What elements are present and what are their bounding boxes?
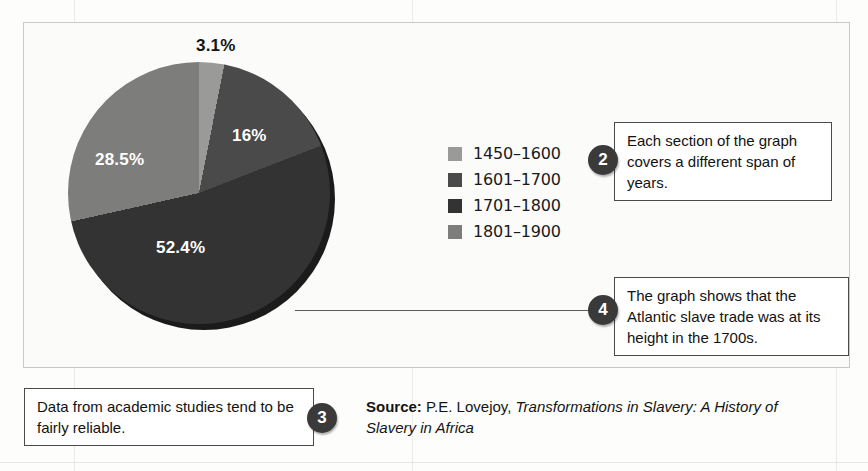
- legend-swatch-icon: [448, 147, 462, 161]
- source-label: Source:: [366, 398, 422, 415]
- legend-swatch-icon: [448, 173, 462, 187]
- source-author: P.E. Lovejoy,: [422, 398, 516, 415]
- pie-disc: [68, 62, 330, 324]
- legend-item-1450-1600[interactable]: 1450–1600: [448, 142, 561, 165]
- pie-chart: [68, 62, 330, 324]
- chart-legend: 1450–16001601–17001701–18001801–1900: [448, 142, 561, 246]
- legend-item-label: 1601–1700: [473, 170, 561, 189]
- callout-box-4: The graph shows that the Atlantic slave …: [614, 277, 849, 356]
- legend-item-1601-1700[interactable]: 1601–1700: [448, 168, 561, 191]
- pie-slice-label-1801-1900: 28.5%: [95, 150, 144, 170]
- callout-badge-4[interactable]: 4: [588, 295, 618, 325]
- callout-badge-3[interactable]: 3: [307, 403, 337, 433]
- legend-item-label: 1801–1900: [473, 222, 561, 241]
- callout-box-3: Data from academic studies tend to be fa…: [24, 388, 314, 446]
- callout-4-leader-line: [295, 310, 595, 311]
- callout-box-2: Each section of the graph covers a diffe…: [614, 122, 832, 201]
- legend-item-1701-1800[interactable]: 1701–1800: [448, 194, 561, 217]
- pie-slice-label-1450-1600: 3.1%: [196, 36, 236, 56]
- legend-item-label: 1701–1800: [473, 196, 561, 215]
- source-citation: Source: P.E. Lovejoy, Transformations in…: [366, 396, 786, 438]
- callout-badge-2[interactable]: 2: [588, 145, 618, 175]
- legend-item-1801-1900[interactable]: 1801–1900: [448, 220, 561, 243]
- page-bottom-edge: [0, 462, 868, 463]
- pie-slice-label-1701-1800: 52.4%: [156, 238, 205, 258]
- legend-swatch-icon: [448, 199, 462, 213]
- pie-slice-label-1601-1700: 16%: [232, 126, 267, 146]
- legend-item-label: 1450–1600: [473, 144, 561, 163]
- legend-swatch-icon: [448, 225, 462, 239]
